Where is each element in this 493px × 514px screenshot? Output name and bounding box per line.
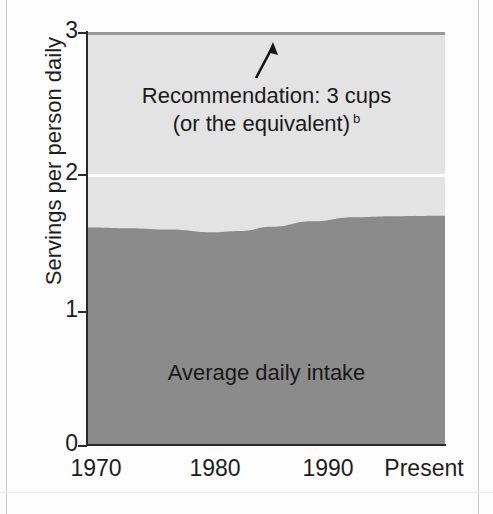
y-tick-label: 1 (52, 298, 78, 321)
intake-band-area (88, 32, 445, 445)
x-tick-label: Present (384, 455, 463, 482)
figure-border-left (6, 0, 7, 514)
chart-plot-area: Recommendation: 3 cups (or the equivalen… (88, 32, 445, 445)
y-tick-mark (78, 32, 87, 34)
y-tick-label: 0 (52, 432, 78, 455)
figure-border-bottom (0, 492, 493, 493)
x-tick-label: 1990 (302, 455, 353, 482)
y-tick-mark (78, 311, 87, 313)
x-tick-label: 1970 (70, 455, 121, 482)
y-tick-mark (78, 445, 87, 447)
x-axis-line (86, 444, 446, 446)
cropped-caption-text (30, 0, 450, 4)
up-arrow-icon (248, 40, 282, 80)
y-axis-line (86, 31, 88, 446)
y-tick-label: 3 (52, 19, 78, 42)
y-tick-label: 2 (52, 161, 78, 184)
figure-border-right (478, 0, 479, 514)
figure-frame: Recommendation: 3 cups (or the equivalen… (0, 0, 493, 514)
y-tick-mark (78, 174, 87, 176)
x-tick-label: 1980 (189, 455, 240, 482)
